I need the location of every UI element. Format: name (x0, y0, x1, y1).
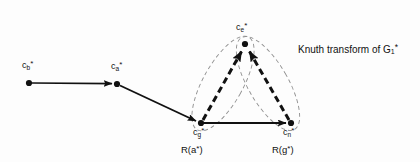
region-label-Ra-prefix: R(a (181, 144, 196, 155)
node-label-ca: ca* (111, 61, 122, 72)
node-label-ca-star: * (119, 60, 122, 69)
edge-cb-to-ca (32, 83, 112, 84)
edge-ca-to-cg (120, 86, 196, 122)
solid-edges-group (32, 83, 286, 123)
dashed-edges-group (203, 52, 289, 121)
edge-cg-to-ce-dashed (203, 52, 242, 121)
edge-cn-to-ce-dashed (250, 52, 290, 121)
node-label-cn-star: * (291, 126, 294, 135)
caption-prefix: Knuth transform of G (298, 44, 391, 55)
node-label-cb: cb* (22, 60, 33, 71)
node-label-cg-star: * (201, 126, 204, 135)
node-label-cb-star: * (30, 59, 33, 68)
node-label-ce-star: * (244, 21, 247, 30)
region-label-Rg-suffix: ) (290, 144, 293, 155)
region-label-Ra: R(a*) (181, 145, 203, 155)
node-ce (242, 41, 248, 47)
diagram-canvas (0, 0, 420, 162)
region-label-Rg: R(g*) (272, 145, 294, 155)
node-label-ce: ce* (236, 22, 247, 33)
region-label-Rg-prefix: R(g (272, 144, 287, 155)
caption-star: * (395, 42, 398, 52)
knuth-transform-diagram: cb* ca* ce* cg* cn* R(a*) R(g*) Knuth tr… (0, 0, 420, 162)
node-label-cg: cg* (193, 127, 204, 138)
node-label-cn: cn* (283, 127, 294, 138)
region-label-Ra-suffix: ) (199, 144, 202, 155)
node-ca (114, 81, 120, 87)
diagram-caption: Knuth transform of G1* (298, 43, 398, 55)
node-cb (26, 80, 32, 86)
